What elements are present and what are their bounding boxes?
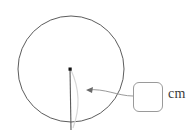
circle-radius-figure: cm bbox=[0, 0, 196, 138]
unit-label-cm: cm bbox=[168, 86, 186, 102]
callout-leader-line bbox=[88, 90, 133, 96]
radius-sweep-arc bbox=[71, 70, 78, 128]
circle-center-dot bbox=[69, 68, 72, 71]
radius-line bbox=[70, 69, 71, 130]
diagram-canvas bbox=[0, 0, 196, 138]
callout-arrowhead bbox=[86, 87, 93, 93]
radius-answer-input[interactable] bbox=[133, 82, 163, 112]
